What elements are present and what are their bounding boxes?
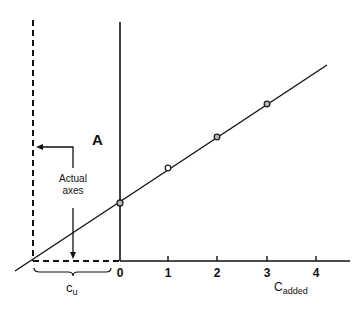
- arrowhead-left-icon: [36, 144, 43, 150]
- cu-brace: [34, 268, 111, 276]
- arrowhead-down-icon: [70, 252, 76, 259]
- data-point: [117, 200, 123, 206]
- cu-label: cu: [66, 281, 78, 297]
- x-axis-label: Cadded: [274, 281, 308, 296]
- actual-axes-annotation: Actual axes: [51, 173, 95, 197]
- cu-sub: u: [73, 287, 78, 297]
- panel-label: A: [92, 132, 103, 147]
- data-point: [264, 101, 270, 107]
- tick-label-4: 4: [313, 267, 320, 279]
- tick-label-3: 3: [264, 267, 271, 279]
- annotation-line-1: Actual: [51, 173, 95, 185]
- data-point: [165, 165, 171, 171]
- tick-label-2: 2: [214, 267, 221, 279]
- annotation-line-2: axes: [51, 185, 95, 197]
- x-axis-label-main: C: [274, 280, 283, 294]
- tick-label-0: 0: [117, 267, 124, 279]
- annotation-arrow-left: [40, 147, 73, 168]
- standard-addition-plot: [0, 0, 364, 310]
- data-point: [214, 134, 220, 140]
- tick-label-1: 1: [165, 267, 172, 279]
- x-axis-label-sub: added: [283, 286, 308, 296]
